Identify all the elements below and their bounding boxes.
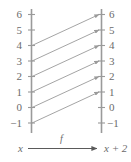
range-tick-label-neg1: −1 <box>107 118 119 129</box>
range-tick-label-5: 5 <box>109 25 115 36</box>
range-axis-line <box>98 9 105 133</box>
domain-tick-label-0: 0 <box>4 102 22 113</box>
domain-axis-line <box>28 9 35 133</box>
domain-tick-label-5: 5 <box>4 25 22 36</box>
mapping-arrow <box>32 92 99 123</box>
mapping-arrows <box>32 15 99 124</box>
domain-tick-label-4: 4 <box>4 40 22 51</box>
range-tick-label-1: 1 <box>109 87 115 98</box>
domain-end-label: x <box>18 143 23 154</box>
domain-tick-label-1: 1 <box>4 87 22 98</box>
range-tick-label-2: 2 <box>109 71 115 82</box>
mapping-arrow <box>32 61 99 92</box>
mapping-diagram-figure: 6 5 4 3 2 1 0 −1 6 5 4 3 2 1 0 −1 f x x … <box>0 0 131 162</box>
domain-tick-label-3: 3 <box>4 56 22 67</box>
domain-tick-label-neg1: −1 <box>1 118 22 129</box>
function-name-label: f <box>60 134 63 144</box>
range-tick-label-0: 0 <box>109 102 115 113</box>
mapping-arrow <box>32 77 99 108</box>
domain-tick-label-2: 2 <box>4 71 22 82</box>
mapping-arrow <box>32 15 99 46</box>
range-end-label: x + 2 <box>104 143 127 154</box>
mapping-arrow <box>32 30 99 61</box>
range-tick-label-6: 6 <box>109 9 115 20</box>
mapping-arrow <box>32 46 99 77</box>
range-tick-label-3: 3 <box>109 56 115 67</box>
range-tick-label-4: 4 <box>109 40 115 51</box>
domain-tick-label-6: 6 <box>4 9 22 20</box>
